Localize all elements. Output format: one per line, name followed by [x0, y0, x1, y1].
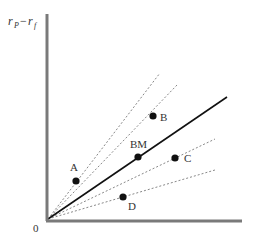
label-b: B [160, 111, 167, 123]
origin-label: 0 [33, 222, 39, 234]
point-bm [134, 153, 141, 160]
label-a: A [70, 161, 78, 173]
dashed-line-b [48, 85, 177, 219]
diagram-canvas: A B BM C D 0 r P − r f [0, 0, 258, 245]
y-axis-label: r P − r f [8, 14, 38, 30]
svg-text:f: f [34, 21, 38, 30]
label-c: C [184, 152, 191, 164]
label-d: D [128, 200, 136, 212]
svg-text:r: r [28, 14, 33, 28]
point-a [72, 177, 79, 184]
label-bm: BM [130, 138, 147, 150]
svg-text:−: − [20, 14, 27, 28]
svg-text:P: P [13, 21, 19, 30]
svg-text:r: r [8, 14, 13, 28]
point-d [119, 193, 126, 200]
point-c [171, 154, 178, 161]
point-b [149, 112, 156, 119]
